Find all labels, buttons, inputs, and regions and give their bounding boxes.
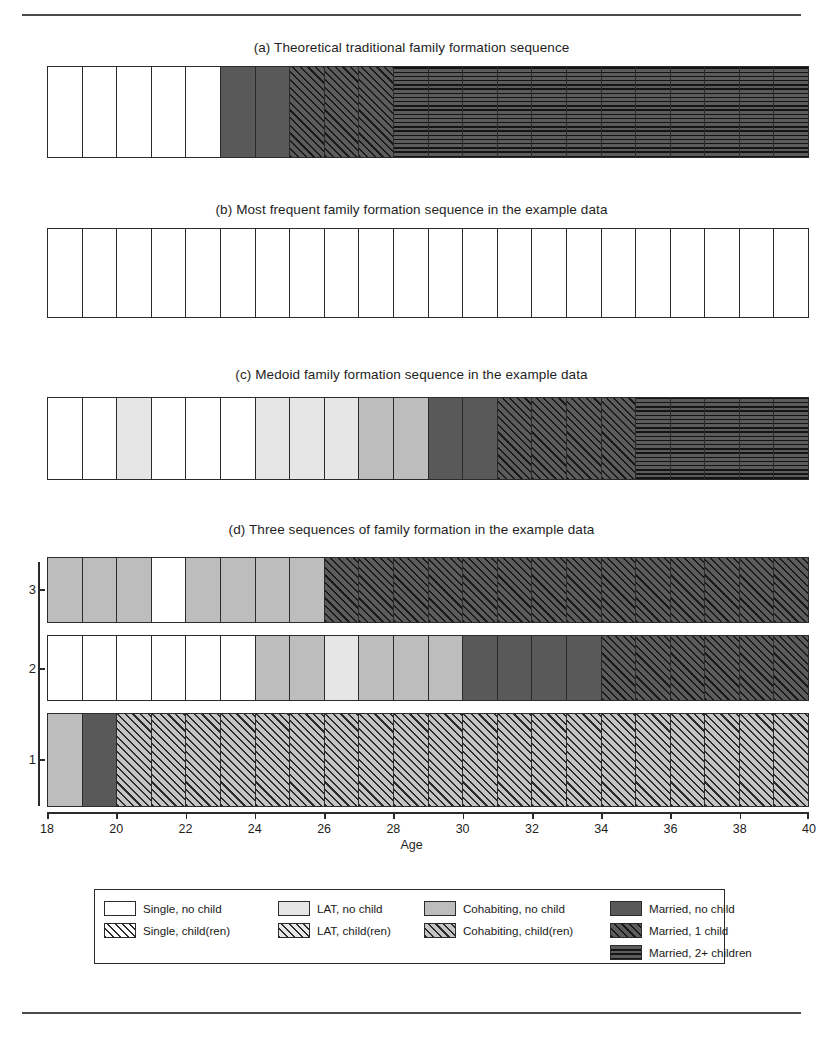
seq-d3-cell-6: [221, 558, 256, 622]
seq-c-cell-6: [221, 398, 256, 479]
y-axis-label-1: 1: [16, 752, 36, 767]
x-tick-label-26: 26: [317, 822, 331, 836]
legend: Single, no childLAT, no childCohabiting,…: [94, 889, 725, 964]
legend-label-cohab-nochild: Cohabiting, no child: [463, 902, 565, 915]
legend-item-married-1child: Married, 1 child: [610, 923, 752, 938]
seq-b-cell-21: [740, 229, 775, 317]
seq-a-cell-13: [463, 67, 498, 157]
seq-b-cell-18: [636, 229, 671, 317]
seq-b-cell-3: [117, 229, 152, 317]
legend-label-married-nochild: Married, no child: [649, 902, 735, 915]
seq-d2-cell-18: [636, 636, 671, 700]
seq-a-cell-19: [671, 67, 706, 157]
sequence-strip-a: [47, 66, 809, 158]
x-tick-34: [601, 812, 603, 819]
seq-b-cell-19: [671, 229, 706, 317]
x-axis-title: Age: [0, 838, 823, 852]
legend-grid: Single, no childLAT, no childCohabiting,…: [104, 897, 752, 963]
seq-a-cell-2: [83, 67, 118, 157]
seq-b-cell-17: [602, 229, 637, 317]
seq-b-cell-13: [463, 229, 498, 317]
seq-d3-cell-22: [774, 558, 808, 622]
seq-d3-cell-14: [498, 558, 533, 622]
x-tick-20: [116, 812, 118, 819]
seq-d2-cell-12: [429, 636, 464, 700]
seq-a-cell-7: [256, 67, 291, 157]
seq-c-cell-15: [532, 398, 567, 479]
seq-d1-cell-16: [567, 714, 602, 806]
seq-d1-cell-9: [325, 714, 360, 806]
seq-c-cell-8: [290, 398, 325, 479]
seq-d1-cell-15: [532, 714, 567, 806]
seq-a-cell-10: [359, 67, 394, 157]
panel-b-title: (b) Most frequent family formation seque…: [0, 202, 823, 217]
seq-c-cell-7: [256, 398, 291, 479]
x-tick-label-34: 34: [594, 822, 608, 836]
seq-a-cell-11: [394, 67, 429, 157]
seq-d2-cell-2: [83, 636, 118, 700]
seq-d2-cell-14: [498, 636, 533, 700]
sequence-strip-c: [47, 397, 809, 480]
panel-d-y-axis: [38, 562, 40, 806]
seq-d1-cell-1: [48, 714, 83, 806]
seq-b-cell-12: [429, 229, 464, 317]
legend-swatch-married-1child: [610, 923, 642, 938]
y-tick-3: [38, 589, 45, 591]
sequence-strip-b: [47, 228, 809, 318]
seq-a-cell-8: [290, 67, 325, 157]
seq-a-cell-6: [221, 67, 256, 157]
seq-d1-cell-2: [83, 714, 118, 806]
seq-d2-cell-3: [117, 636, 152, 700]
x-tick-label-20: 20: [109, 822, 123, 836]
seq-a-cell-22: [774, 67, 808, 157]
seq-d1-cell-19: [671, 714, 706, 806]
legend-item-married-2child: Married, 2+ children: [610, 945, 752, 960]
seq-b-cell-15: [532, 229, 567, 317]
seq-c-cell-18: [636, 398, 671, 479]
page-rule-top: [22, 14, 801, 16]
seq-c-cell-17: [602, 398, 637, 479]
legend-label-single-child: Single, child(ren): [143, 924, 230, 937]
seq-d3-cell-4: [152, 558, 187, 622]
legend-label-lat-child: LAT, child(ren): [317, 924, 391, 937]
seq-b-cell-5: [186, 229, 221, 317]
x-tick-label-36: 36: [664, 822, 678, 836]
seq-b-cell-8: [290, 229, 325, 317]
seq-c-cell-10: [359, 398, 394, 479]
seq-d3-cell-21: [740, 558, 775, 622]
seq-d3-cell-18: [636, 558, 671, 622]
seq-d3-cell-8: [290, 558, 325, 622]
seq-d2-cell-19: [671, 636, 706, 700]
seq-d2-cell-5: [186, 636, 221, 700]
y-tick-1: [38, 759, 45, 761]
legend-label-married-1child: Married, 1 child: [649, 924, 728, 937]
seq-d2-cell-8: [290, 636, 325, 700]
seq-d1-cell-13: [463, 714, 498, 806]
seq-d2-cell-13: [463, 636, 498, 700]
y-axis-label-2: 2: [16, 661, 36, 676]
seq-d3-cell-19: [671, 558, 706, 622]
x-tick-30: [463, 812, 465, 819]
seq-c-cell-13: [463, 398, 498, 479]
seq-b-cell-1: [48, 229, 83, 317]
legend-item-single-child: Single, child(ren): [104, 923, 278, 938]
legend-swatch-married-nochild: [610, 901, 642, 916]
seq-b-cell-4: [152, 229, 187, 317]
seq-c-cell-22: [774, 398, 808, 479]
x-tick-label-22: 22: [179, 822, 193, 836]
sequence-strip-d-row3: [47, 557, 809, 623]
panel-a-title: (a) Theoretical traditional family forma…: [0, 40, 823, 55]
legend-label-married-2child: Married, 2+ children: [649, 946, 752, 959]
seq-d1-cell-5: [186, 714, 221, 806]
seq-d2-cell-16: [567, 636, 602, 700]
seq-b-cell-14: [498, 229, 533, 317]
seq-a-cell-21: [740, 67, 775, 157]
seq-d3-cell-17: [602, 558, 637, 622]
seq-d1-cell-6: [221, 714, 256, 806]
x-axis: 182022242628303234363840: [47, 812, 809, 814]
sequence-strip-d-row2: [47, 635, 809, 701]
seq-d2-cell-4: [152, 636, 187, 700]
seq-a-cell-18: [636, 67, 671, 157]
seq-d3-cell-5: [186, 558, 221, 622]
x-tick-18: [47, 812, 49, 819]
